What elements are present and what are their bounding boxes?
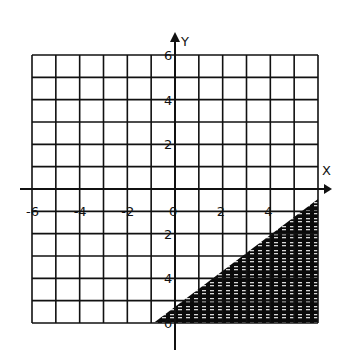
x-axis-arrow-icon — [324, 184, 332, 194]
solution-region — [154, 199, 318, 323]
shaded-region — [154, 199, 318, 323]
x-axis-label: X — [322, 163, 331, 178]
x-tick-label: 4 — [264, 204, 272, 219]
y-tick-label: 6 — [164, 48, 172, 63]
x-tick-label: 2 — [217, 204, 225, 219]
x-tick-label: -2 — [121, 204, 134, 219]
y-tick-label: 2 — [164, 227, 172, 242]
y-tick-label: 0 — [164, 316, 172, 331]
inequality-graph: XY -6-4-2024642240 — [0, 0, 347, 362]
y-tick-label: 4 — [164, 271, 172, 286]
x-tick-label: -6 — [26, 204, 39, 219]
y-axis-arrow-icon — [170, 32, 180, 42]
x-tick-label: 0 — [169, 204, 177, 219]
y-axis-label: Y — [180, 34, 189, 49]
y-tick-label: 2 — [164, 137, 172, 152]
x-tick-label: -4 — [74, 204, 87, 219]
y-tick-label: 4 — [164, 93, 172, 108]
